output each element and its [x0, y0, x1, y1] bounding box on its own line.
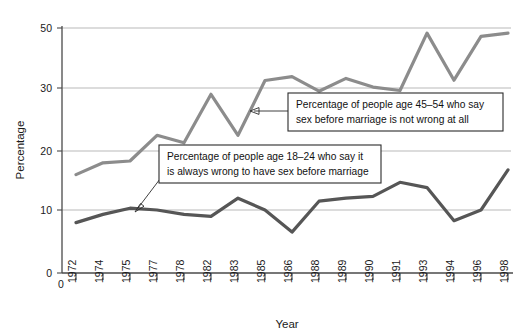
annotation-lower-line1: Percentage of people age 18–24 who say i… — [167, 151, 363, 162]
x-tick-label: 1986 — [282, 259, 294, 283]
x-tick-label: 1998 — [498, 259, 510, 283]
x-tick-label: 1983 — [228, 259, 240, 283]
annotation-age-45-54: Percentage of people age 45–54 who say s… — [250, 93, 503, 131]
x-axis-title: Year — [275, 318, 298, 330]
y-tick-labels: 50 30 20 10 0 — [40, 22, 52, 279]
annotation-lower-line2: is always wrong to have sex before marri… — [167, 166, 369, 177]
x-tick-label: 1972 — [66, 259, 78, 283]
x-tick-label: 1975 — [120, 259, 132, 283]
x-tick-label: 1990 — [363, 259, 375, 283]
x-tick-label: 1978 — [174, 259, 186, 283]
x-tick-label: 1993 — [417, 259, 429, 283]
y-tickmarks — [57, 28, 62, 273]
x-tick-label: 1989 — [336, 259, 348, 283]
annotation-age-18-24: Percentage of people age 18–24 who say i… — [135, 145, 381, 212]
x-tick-label: 1977 — [147, 259, 159, 283]
y-tick-label-50: 50 — [40, 22, 52, 34]
y-tick-label-30: 30 — [40, 82, 52, 94]
x-tick-label: 1982 — [201, 259, 213, 283]
x-tick-label: 1985 — [255, 259, 267, 283]
y-tick-label-10: 10 — [40, 204, 52, 216]
y-axis-title: Percentage — [14, 121, 26, 180]
annotation-upper-line2: sex before marriage is not wrong at all — [296, 114, 469, 125]
y-tick-label-0: 0 — [46, 267, 52, 279]
chart-container: 50 30 20 10 0 Percentage 0 — [0, 0, 527, 334]
x-tick-label: 1988 — [309, 259, 321, 283]
x-tick-label: 1994 — [444, 259, 456, 283]
x-tick-label: 1991 — [390, 259, 402, 283]
line-chart: 50 30 20 10 0 Percentage 0 — [0, 0, 527, 334]
x-tick-label: 1974 — [93, 259, 105, 283]
x-tick-label: 1996 — [471, 259, 483, 283]
x-tick-labels: 1972 1974 1975 1977 1978 1982 1983 1985 … — [66, 259, 510, 283]
annotation-upper-line1: Percentage of people age 45–54 who say — [296, 99, 485, 110]
y-tick-label-20: 20 — [40, 145, 52, 157]
x-origin-label: 0 — [58, 278, 64, 290]
